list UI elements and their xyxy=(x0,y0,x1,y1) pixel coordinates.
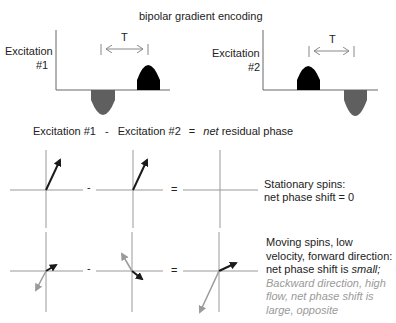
row2-equals: = xyxy=(171,264,177,276)
row1-caption: Stationary spins: net phase shift = 0 xyxy=(264,178,354,204)
interval-label-2: T xyxy=(329,33,336,45)
row1-equals: = xyxy=(171,183,177,195)
row2-caption: Moving spins, low velocity, forward dire… xyxy=(266,236,392,317)
excitation2-waveform xyxy=(263,30,378,116)
equation-term2: Excitation #2 xyxy=(118,125,181,137)
excitation1-number: #1 xyxy=(36,59,48,71)
negative-lobe xyxy=(344,90,367,116)
row2-minus: - xyxy=(87,262,91,274)
positive-lobe xyxy=(137,65,160,90)
excitation1-label: Excitation xyxy=(5,45,53,57)
excitation2-number: #2 xyxy=(248,61,260,73)
row1-minus: - xyxy=(87,181,91,193)
equation-term1: Excitation #1 xyxy=(33,125,96,137)
positive-lobe xyxy=(297,66,320,90)
equation-result: residual phase xyxy=(222,125,294,137)
interval-label-1: T xyxy=(121,31,128,43)
diagram-title: bipolar gradient encoding xyxy=(139,10,263,22)
equation: Excitation #1 - Excitation #2 = net resi… xyxy=(33,125,293,137)
equation-equals: = xyxy=(189,125,195,137)
equation-net: net xyxy=(203,125,218,137)
negative-lobe xyxy=(91,90,115,115)
equation-minus: - xyxy=(105,125,109,137)
excitation1-waveform xyxy=(56,30,170,115)
excitation2-label: Excitation xyxy=(212,47,260,59)
